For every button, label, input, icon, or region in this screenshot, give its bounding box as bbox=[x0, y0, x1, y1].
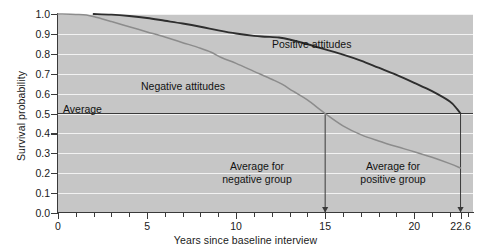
x-tick-minor-22 bbox=[450, 213, 451, 217]
x-tick-minor-21 bbox=[432, 213, 433, 217]
x-tick-minor-12 bbox=[272, 213, 273, 217]
x-tick-minor-4 bbox=[129, 213, 130, 217]
gridline-y-0.9 bbox=[58, 34, 473, 35]
y-tick-0.1 bbox=[51, 193, 57, 194]
x-axis-line bbox=[57, 212, 474, 213]
y-tick-0.2 bbox=[51, 173, 57, 174]
x-tick-minor-16 bbox=[343, 213, 344, 217]
y-tick-0.8 bbox=[51, 54, 57, 55]
y-tick-0.6 bbox=[51, 94, 57, 95]
annotation-average-positive-group-line2: positive group bbox=[360, 173, 425, 186]
y-tick-0.5 bbox=[51, 114, 57, 115]
x-axis-title: Years since baseline interview bbox=[0, 234, 491, 246]
annotation-average-negative-group-line2: negative group bbox=[222, 173, 291, 186]
y-tick-label-1: 1.0 bbox=[16, 9, 50, 20]
y-tick-1 bbox=[51, 14, 57, 15]
x-tick-minor-3 bbox=[111, 213, 112, 217]
x-tick-0 bbox=[58, 213, 59, 219]
x-tick-minor-11 bbox=[254, 213, 255, 217]
x-tick-5 bbox=[147, 213, 148, 219]
x-tick-minor-13 bbox=[290, 213, 291, 217]
x-tick-label-5: 5 bbox=[144, 221, 150, 232]
y-tick-0.7 bbox=[51, 74, 57, 75]
annotation-positive-attitudes: Positive attitudes bbox=[272, 38, 351, 51]
annotation-average-negative-group-line1: Average for bbox=[222, 160, 291, 173]
x-tick-minor-7 bbox=[183, 213, 184, 217]
x-tick-15 bbox=[325, 213, 326, 219]
annotation-average-positive-group-line1: Average for bbox=[360, 160, 425, 173]
x-tick-label-22.6: 22.6 bbox=[450, 221, 470, 232]
gridline-y-0.8 bbox=[58, 54, 473, 55]
x-tick-minor-18 bbox=[379, 213, 380, 217]
y-tick-0 bbox=[51, 213, 57, 214]
x-tick-minor-1 bbox=[76, 213, 77, 217]
x-tick-22.6 bbox=[461, 213, 462, 219]
x-tick-minor-17 bbox=[361, 213, 362, 217]
annotation-negative-attitudes: Negative attitudes bbox=[141, 80, 225, 93]
x-tick-minor-8 bbox=[200, 213, 201, 217]
annotation-average-negative-group: Average for negative group bbox=[222, 160, 291, 186]
gridline-y-0.6 bbox=[58, 94, 473, 95]
annotation-average-positive-group: Average for positive group bbox=[360, 160, 425, 186]
annotation-average: Average bbox=[63, 103, 102, 116]
x-tick-minor-9 bbox=[218, 213, 219, 217]
gridline-y-0.4 bbox=[58, 133, 473, 134]
gridline-y-0.7 bbox=[58, 74, 473, 75]
y-tick-label-0: 0.0 bbox=[16, 208, 50, 219]
gridline-y-0.3 bbox=[58, 153, 473, 154]
y-axis-line bbox=[57, 13, 58, 214]
x-tick-label-0: 0 bbox=[55, 221, 61, 232]
y-tick-0.3 bbox=[51, 153, 57, 154]
gridline-y-0.5 bbox=[58, 114, 473, 115]
x-tick-label-10: 10 bbox=[230, 221, 242, 232]
x-tick-10 bbox=[236, 213, 237, 219]
x-tick-minor-19 bbox=[396, 213, 397, 217]
gridline-y-1 bbox=[58, 14, 473, 15]
x-tick-minor-6 bbox=[165, 213, 166, 217]
x-tick-minor-14 bbox=[307, 213, 308, 217]
survival-probability-chart: 0.00.10.20.30.40.50.60.70.80.91.0 051015… bbox=[0, 0, 491, 252]
x-tick-minor-2 bbox=[94, 213, 95, 217]
y-axis-title: Survival probability bbox=[15, 41, 27, 191]
y-tick-label-0.9: 0.9 bbox=[16, 29, 50, 40]
y-tick-0.4 bbox=[51, 133, 57, 134]
gridline-y-0.1 bbox=[58, 193, 473, 194]
x-tick-minor-23 bbox=[468, 213, 469, 217]
x-tick-label-15: 15 bbox=[319, 221, 331, 232]
x-tick-20 bbox=[414, 213, 415, 219]
x-tick-label-20: 20 bbox=[408, 221, 420, 232]
y-tick-0.9 bbox=[51, 34, 57, 35]
